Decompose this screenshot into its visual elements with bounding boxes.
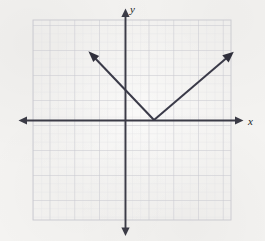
coordinate-plane-plot: y x xyxy=(0,0,265,241)
graph-vertex-point xyxy=(153,119,155,121)
y-axis-up-arrow-icon xyxy=(121,9,129,18)
y-axis-label: y xyxy=(129,3,135,15)
y-axis-down-arrow-icon xyxy=(121,228,129,237)
x-axis-label: x xyxy=(247,115,253,127)
x-axis-right-arrow-icon xyxy=(235,116,244,124)
graph-figure: y x xyxy=(0,0,265,241)
x-axis-left-arrow-icon xyxy=(19,116,28,124)
